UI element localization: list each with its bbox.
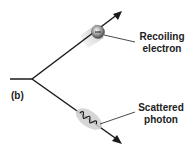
electron-label-leader [104,35,135,42]
panel-label: (b) [11,90,24,102]
electron-path-line [32,14,118,79]
compton-scattering-diagram [0,0,191,154]
photon-label: Scattered photon [134,102,188,126]
photon-label-leader [100,112,135,124]
electron-label: Recoiling electron [136,31,188,55]
electron-arrowhead-icon [113,11,122,20]
photon-blob [72,104,106,134]
electron-label-line1: Recoiling [136,31,188,43]
electron-label-line2: electron [136,43,188,55]
photon-path-line [32,79,118,140]
photon-label-line1: Scattered [134,102,188,114]
photon-label-line2: photon [134,114,188,126]
